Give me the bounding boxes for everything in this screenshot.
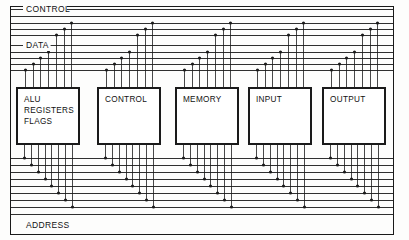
junction-dot: [144, 27, 147, 30]
junction-dot: [369, 27, 372, 30]
block-label-control-unit: CONTROL: [105, 95, 147, 104]
junction-dot: [151, 21, 154, 24]
junction-dot: [350, 177, 353, 180]
junction-dot: [370, 198, 373, 201]
junction-dot: [336, 163, 339, 166]
block-label-alu: ALU: [24, 95, 41, 104]
junction-dot: [32, 62, 35, 65]
junction-dot: [55, 33, 58, 36]
junction-dot: [343, 170, 346, 173]
junction-dot: [377, 205, 380, 208]
junction-dot: [189, 163, 192, 166]
junction-dot: [303, 205, 306, 208]
junction-dot: [223, 198, 226, 201]
junction-dot: [279, 50, 282, 53]
junction-dot: [125, 177, 128, 180]
bus-architecture-diagram: ALUREGISTERSFLAGSCONTROLMEMORYINPUTOUTPU…: [0, 0, 409, 240]
junction-dot: [105, 68, 108, 71]
bus-label-control: CONTROL: [26, 4, 70, 14]
junction-dot: [264, 62, 267, 65]
junction-dot: [229, 21, 232, 24]
diagram-canvas: ALUREGISTERSFLAGSCONTROLMEMORYINPUTOUTPU…: [0, 0, 409, 240]
junction-dot: [330, 68, 333, 71]
block-label-memory: MEMORY: [183, 95, 222, 104]
junction-dot: [214, 33, 217, 36]
junction-dot: [50, 184, 53, 187]
junction-dot: [24, 68, 27, 71]
junction-dot: [138, 191, 141, 194]
junction-dot: [118, 170, 121, 173]
junction-dot: [70, 21, 73, 24]
junction-dot: [183, 68, 186, 71]
junction-dot: [113, 62, 116, 65]
junction-dot: [203, 177, 206, 180]
junction-dot: [262, 163, 265, 166]
junction-dot: [338, 62, 341, 65]
junction-dot: [111, 163, 114, 166]
junction-dot: [104, 156, 107, 159]
junction-dot: [131, 184, 134, 187]
block-label-input: INPUT: [256, 95, 282, 104]
junction-dot: [256, 68, 259, 71]
junction-dot: [356, 184, 359, 187]
junction-dot: [198, 56, 201, 59]
junction-dot: [191, 62, 194, 65]
junction-dot: [269, 170, 272, 173]
junction-dot: [295, 27, 298, 30]
junction-dot: [329, 156, 332, 159]
block-label-output: OUTPUT: [330, 95, 365, 104]
junction-dot: [128, 50, 131, 53]
junction-dot: [222, 27, 225, 30]
junction-dot: [136, 33, 139, 36]
junction-dot: [37, 170, 40, 173]
junction-dot: [145, 198, 148, 201]
junction-dot: [276, 177, 279, 180]
block-label-alu: REGISTERS: [24, 106, 74, 115]
junction-dot: [230, 205, 233, 208]
junction-dot: [63, 27, 66, 30]
junction-dot: [23, 156, 26, 159]
block-label-alu: FLAGS: [24, 117, 53, 126]
junction-dot: [353, 50, 356, 53]
bus-label-data: DATA: [26, 40, 49, 50]
bus-label-address: ADDRESS: [26, 220, 70, 230]
junction-dot: [216, 191, 219, 194]
junction-dot: [287, 33, 290, 36]
junction-dot: [289, 191, 292, 194]
junction-dot: [44, 177, 47, 180]
junction-dot: [71, 205, 74, 208]
junction-dot: [345, 56, 348, 59]
junction-dot: [182, 156, 185, 159]
junction-dot: [209, 184, 212, 187]
junction-dot: [302, 21, 305, 24]
junction-dot: [271, 56, 274, 59]
junction-dot: [30, 163, 33, 166]
junction-dot: [57, 191, 60, 194]
junction-dot: [376, 21, 379, 24]
junction-dot: [206, 50, 209, 53]
junction-dot: [39, 56, 42, 59]
junction-dot: [64, 198, 67, 201]
junction-dot: [152, 205, 155, 208]
junction-dot: [196, 170, 199, 173]
junction-dot: [363, 191, 366, 194]
junction-dot: [296, 198, 299, 201]
junction-dot: [255, 156, 258, 159]
junction-dot: [282, 184, 285, 187]
junction-dot: [361, 33, 364, 36]
junction-dot: [120, 56, 123, 59]
